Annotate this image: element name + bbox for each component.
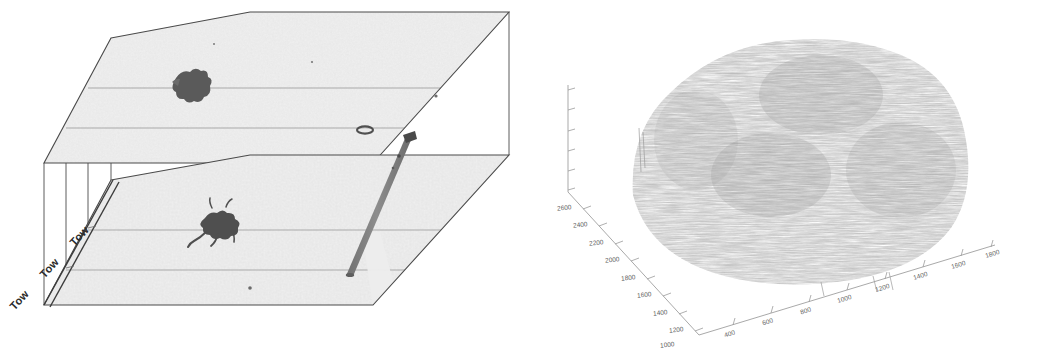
- point-cloud-plot-panel: 2600 2400 2200 2000 1800 1600 1400 1200 …: [521, 0, 1042, 360]
- y-tick-label: 1000: [660, 340, 675, 348]
- y-tick-label: 2000: [605, 255, 620, 263]
- y-tick-label: 2200: [589, 238, 604, 246]
- point-cloud-svg: [521, 0, 1042, 360]
- sonar-slice-schematic-panel: Tow Tow Tow: [0, 0, 521, 360]
- z-axis-ticks: [568, 88, 575, 190]
- y-tick-label: 1400: [653, 308, 668, 316]
- figure-root: Tow Tow Tow: [0, 0, 1042, 360]
- y-tick-label: 2600: [557, 203, 572, 211]
- y-tick-label: 1200: [669, 325, 684, 333]
- point-cloud-series: [621, 30, 991, 295]
- y-tick-label: 1600: [637, 290, 652, 298]
- upper-sonar-slice: [40, 8, 515, 168]
- y-tick-label: 2400: [573, 220, 588, 228]
- y-tick-label: 1800: [621, 273, 636, 281]
- sonar-schematic-svg: [0, 0, 521, 360]
